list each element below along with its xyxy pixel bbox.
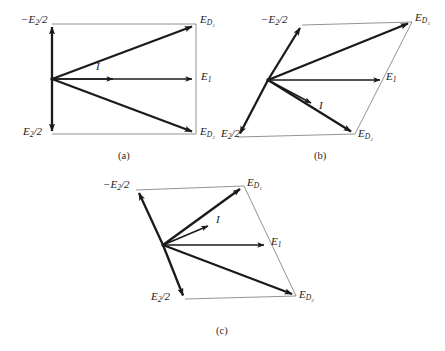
- guide-top: [136, 186, 244, 190]
- panel-a-label-ed2: ED₂: [200, 126, 215, 139]
- panel-a-label-minus-e2-over-2: −E2/2: [21, 14, 47, 27]
- caption-a: (a): [118, 150, 130, 161]
- panel-c-label-current: I: [216, 214, 220, 225]
- figure-sheet: −E2/2 E2/2 ED₁ ED₂ E1 I −E2/2 E2/2 ED₁ E…: [0, 0, 445, 351]
- vector-ed2: [268, 80, 351, 132]
- panel-b-label-e1: E1: [386, 71, 396, 84]
- panel-c-label-ed2: ED₂: [299, 289, 314, 302]
- guide-top: [302, 22, 412, 25]
- vector-ed1: [163, 189, 240, 245]
- panel-c-label-e1: E1: [271, 236, 281, 249]
- panel-a-label-current: I: [96, 61, 100, 72]
- panel-a-label-e1: E1: [201, 71, 211, 84]
- guide-bottom: [238, 134, 355, 137]
- vector-ed2: [163, 245, 292, 294]
- vector-e2-over-2: [240, 80, 268, 134]
- vector-minus-e2-over-2: [139, 193, 163, 245]
- panel-c-label-e2-over-2: E2/2: [151, 291, 170, 304]
- vector-ed2: [52, 79, 192, 132]
- vector-current: [268, 80, 311, 103]
- panel-b-label-minus-e2-over-2: −E2/2: [261, 14, 287, 27]
- panel-a-label-ed1: ED₁: [200, 14, 215, 27]
- vector-minus-e2-over-2: [268, 28, 300, 80]
- phasor-diagram-canvas: [0, 0, 445, 351]
- panel-b-label-ed1: ED₁: [415, 12, 430, 25]
- guide-right: [355, 22, 412, 134]
- caption-b: (b): [314, 150, 326, 161]
- caption-c: (c): [216, 325, 228, 336]
- panel-c-label-ed1: ED₁: [247, 177, 262, 190]
- panel-a: [50, 24, 196, 134]
- panel-c-label-minus-e2-over-2: −E2/2: [103, 179, 129, 192]
- guide-bottom: [185, 296, 296, 299]
- vector-ed1: [52, 27, 192, 80]
- panel-c-vectors: [139, 189, 292, 296]
- origin-node: [266, 78, 269, 81]
- panel-b-label-current: I: [319, 100, 323, 111]
- origin-node: [161, 243, 164, 246]
- panel-a-vectors: [50, 27, 192, 132]
- panel-a-label-e2-over-2: E2/2: [23, 126, 42, 139]
- panel-b-label-ed2: ED₂: [358, 128, 373, 141]
- origin-node: [50, 77, 53, 80]
- panel-b-label-e2-over-2: E2/2: [221, 128, 240, 141]
